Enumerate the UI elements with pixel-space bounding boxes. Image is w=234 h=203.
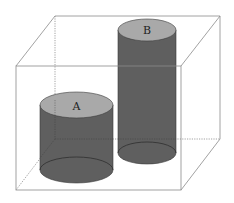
cylinder-a: A — [40, 92, 113, 183]
cylinder-b: B — [118, 19, 176, 164]
cylinder-b-label: B — [143, 24, 151, 37]
diagram-canvas: B A — [0, 0, 234, 203]
cylinder-a-label: A — [72, 100, 82, 113]
